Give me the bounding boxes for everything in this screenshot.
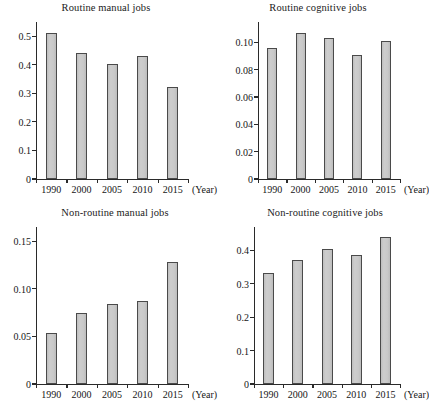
x-axis-tick [66,179,67,183]
y-axis-tick-label: 0.1 [19,145,32,156]
x-axis-tick-label: 1990 [41,184,61,195]
plot-area: 00.050.100.1519902000200520102015(Year) [36,227,188,384]
y-axis-tick [32,150,37,151]
y-axis-tick-label: 0.10 [236,37,254,48]
bar [380,237,391,384]
y-axis-tick-label: 0.4 [237,245,250,256]
x-axis-tick-label: 2010 [346,389,366,400]
x-axis-tick [127,179,128,183]
x-axis-tick-label: 2005 [102,184,122,195]
y-axis-tick-label: 0.2 [19,116,32,127]
x-axis-tick [188,179,189,183]
bar [351,255,362,384]
bar [381,41,391,179]
bar [267,48,277,179]
x-axis-tick-label: 2000 [291,184,311,195]
bar [107,304,118,384]
y-axis-tick-label: 0.10 [14,283,32,294]
y-axis-tick [254,124,259,125]
y-axis-tick-label: 0.02 [236,146,254,157]
plot-area: 00.10.20.30.419902000200520102015(Year) [254,227,400,384]
x-axis-tick-label: 2000 [72,389,92,400]
y-axis-tick-label: 0.15 [14,236,32,247]
y-axis-tick-label: 0.5 [19,31,32,42]
y-axis-line [36,22,37,179]
y-axis-tick-label: 0.4 [19,59,32,70]
bar [137,301,148,384]
x-axis-tick [158,179,159,183]
x-axis-tick-label: 2015 [375,389,395,400]
y-axis-tick-label: 0.08 [236,64,254,75]
x-axis-tick [400,384,401,388]
x-axis-tick-label: 2010 [132,389,152,400]
x-axis-tick [343,179,344,183]
chart-title: Routine manual jobs [0,2,212,13]
x-axis-tick [400,179,401,183]
bar [76,313,87,384]
y-axis-tick-label: 0.06 [236,92,254,103]
x-axis-tick [372,179,373,183]
x-axis-tick [36,179,37,183]
bar [167,262,178,384]
chart-title: Non-routine cognitive jobs [212,207,424,218]
x-axis-tick-label: 2015 [163,184,183,195]
x-axis-tick-label: 2010 [347,184,367,195]
y-axis-tick [254,69,259,70]
x-axis-tick [254,384,255,388]
y-axis-tick [250,250,255,251]
y-axis-tick [250,350,255,351]
y-axis-tick [32,36,37,37]
y-axis-tick [32,336,37,337]
x-axis-tick [158,384,159,388]
y-axis-tick-label: 0.3 [237,278,250,289]
x-axis-tick-label: 1990 [259,389,279,400]
x-axis-tick-label: 1990 [262,184,282,195]
x-axis-tick [283,384,284,388]
x-axis-tick-label: 2000 [72,184,92,195]
x-axis-tick [97,384,98,388]
x-axis-tick [258,179,259,183]
x-axis-unit-label: (Year) [404,184,429,195]
x-axis-tick-label: 2005 [319,184,339,195]
y-axis-tick-label: 0.2 [237,312,250,323]
y-axis-tick-label: 0.1 [237,345,250,356]
x-axis-line [36,384,188,385]
bar [76,53,87,179]
chart-panel-non-routine-manual-jobs: Non-routine manual jobs 00.050.100.15199… [0,205,212,409]
x-axis-tick [312,384,313,388]
x-axis-tick-label: 2015 [376,184,396,195]
bar [46,333,57,384]
x-axis-tick [188,384,189,388]
chart-panel-non-routine-cognitive-jobs: Non-routine cognitive jobs 00.10.20.30.4… [212,205,424,409]
x-axis-tick [127,384,128,388]
bar [263,273,274,384]
x-axis-unit-label: (Year) [404,389,429,400]
x-axis-tick-label: 2000 [288,389,308,400]
bar [46,33,57,179]
y-axis-tick [32,241,37,242]
x-axis-tick-label: 2005 [102,389,122,400]
y-axis-tick-label: 0 [244,379,249,390]
x-axis-tick [36,384,37,388]
y-axis-tick [254,151,259,152]
bar [324,38,334,179]
bar [137,56,148,179]
y-axis-tick [32,93,37,94]
x-axis-tick [286,179,287,183]
bar [322,249,333,384]
bar [167,87,178,179]
y-axis-line [36,227,37,384]
y-axis-tick-label: 0 [26,379,31,390]
x-axis-line [258,179,400,180]
x-axis-tick [97,179,98,183]
chart-panel-routine-cognitive-jobs: Routine cognitive jobs 00.020.040.060.08… [212,0,424,204]
plot-area: 00.10.20.30.40.519902000200520102015(Yea… [36,22,188,179]
bar [292,260,303,384]
x-axis-tick-label: 2015 [163,389,183,400]
x-axis-tick [66,384,67,388]
x-axis-tick-label: 2005 [317,389,337,400]
y-axis-tick [32,64,37,65]
x-axis-tick [342,384,343,388]
y-axis-line [258,22,259,179]
